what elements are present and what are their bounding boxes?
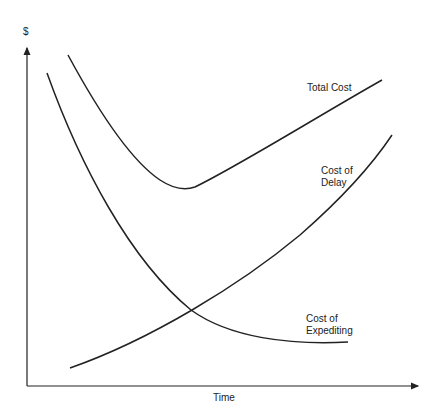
- cost-of-expediting-curve: [47, 73, 348, 343]
- cost-of-delay-label-line2: Delay: [321, 177, 347, 189]
- chart-canvas: [0, 0, 439, 413]
- x-axis-label: Time: [213, 392, 235, 404]
- cost-of-expediting-label-line1: Cost of: [306, 313, 338, 325]
- y-axis-label: $: [23, 26, 29, 38]
- total-cost-label: Total Cost: [307, 82, 351, 94]
- cost-of-delay-label-line1: Cost of: [321, 165, 353, 177]
- cost-of-expediting-label-line2: Expediting: [306, 325, 353, 337]
